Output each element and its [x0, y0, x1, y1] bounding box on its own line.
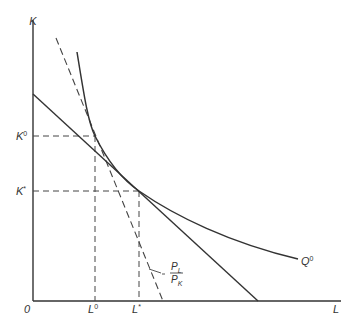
x-axis-label: L: [333, 303, 339, 315]
slope-denominator: PK: [171, 274, 183, 287]
kstar-label: K*: [16, 185, 26, 197]
isoquant-curve: [77, 52, 298, 259]
l0-label: L0: [88, 303, 98, 315]
slope-numerator: PL: [171, 261, 182, 274]
lstar-label: L*: [132, 303, 141, 315]
origin-label: 0: [24, 303, 31, 315]
isocost-line: [33, 94, 258, 301]
slope-leader: [149, 269, 161, 273]
y-axis-label: K: [29, 15, 37, 27]
isoquant-label: Q0: [301, 255, 314, 267]
k0-label: K0: [16, 130, 27, 142]
isoquant-diagram: K L 0 K0 K* L0 L* Q0 PL PK: [0, 0, 353, 326]
steep-isocost-line: [56, 38, 163, 301]
